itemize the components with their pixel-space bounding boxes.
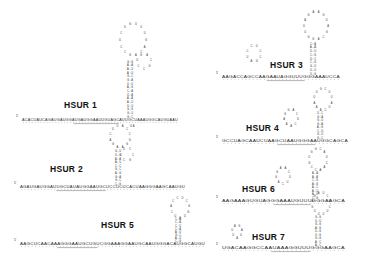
loop-base: A [311,199,313,203]
loop-base: A [320,108,322,112]
internal-loop-base: U [136,58,138,62]
loop-base: C [172,199,174,203]
internal-loop-base: G [256,59,258,63]
loop-base: C [311,165,313,169]
loop-base: U [328,90,330,94]
internal-loop-base: C [129,147,131,151]
stem-base-right: G [319,229,321,233]
loop-base: U [303,24,305,28]
stem-base-right: C [119,178,121,182]
loop-base: A [304,18,306,22]
stem-base-right: C [314,57,316,61]
backbone-sequence: AAGCUCAACAAAGGGAAUGCUGUCGGAAAGGAAUGCAAUG… [20,242,205,246]
internal-loop-base: A [293,108,295,112]
stem-base-left: G [127,74,129,78]
stem-base-left: U [115,153,117,157]
internal-loop-base: C [282,182,284,186]
internal-loop-base: A [234,224,236,228]
internal-loop-base: A [236,236,238,240]
stem-base-left: C [310,53,312,57]
internal-loop-base: U [287,180,289,184]
loop-base: G [315,147,317,151]
stem-base-left: G [317,136,319,140]
loop-base: C [126,127,128,131]
backbone-sequence: GCCUAGCAAUCUAAGCUAAUGGGAAUGGCAGCA [222,139,348,143]
internal-loop-base: U [297,117,299,121]
loop-base: G [308,35,310,39]
loop-base: U [144,31,146,35]
loop-base: C [326,194,328,198]
internal-loop-base: C [250,44,252,48]
structure-label-hsur6: HSUR 6 [242,184,275,194]
structure-label-hsur2: HSUR 2 [50,164,83,174]
stem-base-left: C [115,164,117,168]
stem-base-right: G [314,72,316,76]
loop-base: C [326,161,328,165]
internal-loop-base: G [148,64,150,68]
loop-base: A [319,168,321,172]
loop-base: U [322,191,324,195]
loop-base: C [129,132,131,136]
five-prime-marker: 5' [14,181,17,185]
internal-loop-base: U [240,233,242,237]
loop-base: A [117,145,119,149]
stem-base-right: U [131,111,133,115]
loop-base: U [140,25,142,29]
stem-base-left: A [315,240,317,244]
loop-base: U [116,124,118,128]
loop-base: C [124,50,126,54]
loop-base: U [326,155,328,159]
stem-base-right: G [131,107,133,111]
stem-base-left: U [315,229,317,233]
pairing-ticks [224,203,343,204]
stem-base-left: G [315,215,317,219]
loop-base: G [188,204,190,208]
loop-base: A [318,191,320,195]
stem-base-left: G [115,167,117,171]
stem-base-left: A [115,160,117,164]
loop-base: G [129,22,131,26]
loop-base: C [324,108,326,112]
loop-base: C [324,87,326,91]
internal-loop-base: A [250,59,252,63]
internal-loop-base: G [140,53,142,57]
loop-base: G [308,161,310,165]
loop-base: A [331,101,333,105]
five-prime-marker: 5' [16,114,19,118]
internal-loop-base: C [132,153,134,157]
stem-base-left: A [317,125,319,129]
figure-canvas: ACACUAUCAGAUGAUGGAUGAUGGAAUUGUAGCAUUGCUA… [0,0,380,266]
internal-loop-base: A [280,166,282,170]
backbone-sequence: AGAUGAUGGAUUGCUAUAUGGAAUGCUCCUCUCACUAAGG… [20,185,185,189]
structure-label-hsur5: HSUR 5 [101,220,134,230]
stem-base-right: G [321,125,323,129]
stem-base-right: G [119,171,121,175]
stem-base-left: A [310,45,312,49]
loop-base: U [182,196,184,200]
stem-base-left: A [127,67,129,71]
loop-base: G [322,13,324,17]
stem-base-right: A [119,157,121,161]
stem-base-right: G [316,182,318,186]
stem-base-right: A [316,175,318,179]
stem-base-right: G [314,53,316,57]
stem-base-left: G [317,115,319,119]
stem-base-left: A [315,243,317,247]
loop-base: U [313,95,315,99]
stem-base-right: G [319,233,321,237]
backbone-sequence: AAGAAAGUGUAGGGAAAUGUUUGGGAAGCA [222,199,345,203]
stem-base-left: C [127,89,129,93]
stem-base-right: U [321,132,323,136]
stem-base-right: A [321,115,323,119]
stem-base-left: U [127,82,129,86]
pairing-ticks [22,246,204,247]
stem-base-right: C [131,115,133,119]
stem-base-left: C [312,178,314,182]
stem-base-right: G [314,60,316,64]
stem-base-right: C [316,185,318,189]
structure-label-hsur7: HSUR 7 [252,232,285,242]
loop-base: A [323,150,325,154]
stem-base-right: G [131,60,133,64]
stem-base-left: G [317,118,319,122]
stem-base-right: U [314,68,316,72]
